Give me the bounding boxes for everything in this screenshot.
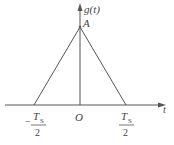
left-tick-subscript: S	[40, 117, 44, 125]
right-tick-numerator: T	[121, 110, 128, 122]
minus-sign: −	[25, 116, 31, 127]
right-tick-label: T S 2	[119, 110, 134, 138]
right-tick-denominator: 2	[123, 127, 128, 138]
diagram-canvas: g(t) A t O − T S 2 T S 2	[0, 0, 174, 145]
peak-label: A	[82, 17, 90, 29]
triangular-pulse-diagram: g(t) A t O − T S 2 T S 2	[0, 0, 174, 145]
left-tick-numerator: T	[33, 110, 40, 122]
x-axis-label: t	[163, 104, 166, 115]
origin-label: O	[75, 111, 83, 123]
peak-point	[79, 26, 81, 28]
y-axis-arrow-icon	[78, 3, 83, 11]
left-tick-denominator: 2	[35, 127, 40, 138]
y-axis-label: g(t)	[84, 3, 100, 16]
right-tick-subscript: S	[128, 117, 132, 125]
left-tick-label: − T S 2	[25, 110, 46, 138]
